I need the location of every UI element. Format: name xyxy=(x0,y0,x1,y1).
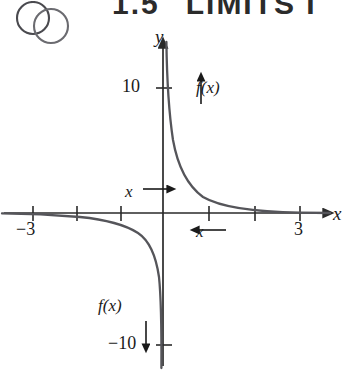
annotation-x-from-right: x xyxy=(196,222,204,242)
x-tick-label-3: 3 xyxy=(294,219,303,240)
graph-figure xyxy=(0,0,353,384)
y-tick-label-10: 10 xyxy=(122,76,140,97)
annotation-f-of-x-increasing: f(x) xyxy=(196,78,220,98)
x-axis-label: x xyxy=(333,203,341,225)
y-tick-label-neg10: −10 xyxy=(108,333,136,354)
annotation-f-of-x-decreasing: f(x) xyxy=(98,296,122,316)
page-root: 1.5LIMITS I xyxy=(0,0,353,384)
y-axis-label: y xyxy=(155,26,163,48)
annotation-x-from-left: x xyxy=(125,182,133,202)
x-tick-label-neg3: −3 xyxy=(16,219,35,240)
curve-branch-positive xyxy=(166,42,330,213)
y-axis-ticks xyxy=(156,88,172,345)
